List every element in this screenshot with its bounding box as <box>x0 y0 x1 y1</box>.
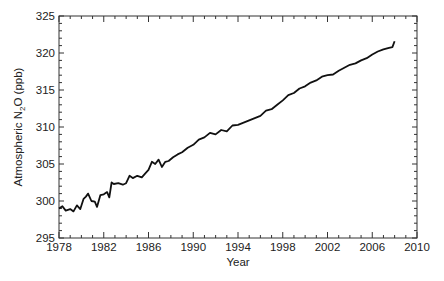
plot-frame <box>59 16 417 238</box>
x-tick-label: 2010 <box>404 241 430 253</box>
y-axis: 295300305310315320325 <box>36 10 417 244</box>
x-tick-label: 1982 <box>91 241 117 253</box>
n2o-line <box>59 41 395 211</box>
x-tick-label: 1998 <box>270 241 296 253</box>
x-tick-label: 1978 <box>46 241 72 253</box>
y-tick-label: 325 <box>36 10 55 22</box>
plot-border <box>59 16 417 238</box>
chart: 295300305310315320325 197819821986199019… <box>0 0 444 281</box>
y-tick-label: 315 <box>36 84 55 96</box>
x-tick-label: 1994 <box>225 241 251 253</box>
y-tick-label: 305 <box>36 158 55 170</box>
y-tick-label: 320 <box>36 47 55 59</box>
x-tick-label: 2006 <box>359 241 385 253</box>
x-tick-label: 1990 <box>180 241 206 253</box>
x-tick-label: 2002 <box>315 241 341 253</box>
y-axis-title: Atmospheric N2O (ppb) <box>12 67 27 186</box>
y-tick-label: 300 <box>36 195 55 207</box>
y-tick-label: 310 <box>36 121 55 133</box>
x-axis: 197819821986199019941998200220062010 <box>46 16 430 253</box>
x-axis-title: Year <box>226 256 249 268</box>
data-series <box>59 41 395 211</box>
x-tick-label: 1986 <box>136 241 162 253</box>
